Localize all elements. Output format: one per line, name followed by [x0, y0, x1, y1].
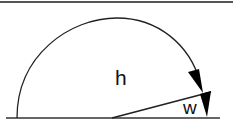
label-h: h — [115, 66, 127, 89]
diagram-svg: h w — [0, 0, 233, 132]
diagram-canvas: h w — [0, 0, 233, 132]
label-w: w — [182, 97, 197, 118]
arrowhead-h-icon — [188, 69, 203, 93]
arrowhead-w-icon — [200, 91, 211, 117]
